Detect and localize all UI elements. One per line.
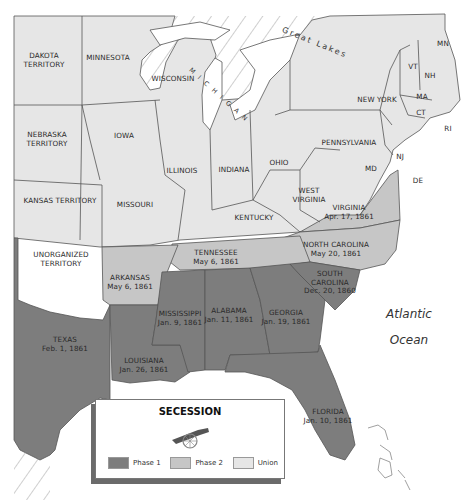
nebraska-label-line2: TERRITORY (27, 139, 68, 148)
south-carolina-date: Dec. 20, 1860 (304, 287, 356, 296)
legend-label-union: Union (258, 459, 278, 467)
label-nj: NJ (396, 153, 404, 162)
florida-date: Jan. 10, 1861 (304, 416, 353, 425)
swatch-phase1 (108, 457, 129, 469)
label-north-carolina: NORTH CAROLINAMay 20, 1861 (303, 241, 369, 258)
label-iowa: IOWA (114, 132, 134, 141)
label-nh: NH (425, 72, 436, 81)
label-ma: MA (416, 93, 427, 102)
legend-item-phase1: Phase 1 (108, 457, 161, 469)
label-dakota-territory: DAKOTATERRITORY (24, 52, 65, 69)
label-tennessee: TENNESSEEMay 6, 1861 (193, 249, 239, 266)
texas-date: Feb. 1, 1861 (42, 344, 88, 353)
legend-label-phase2: Phase 2 (195, 459, 223, 467)
label-pennsylvania: PENNSYLVANIA (322, 139, 377, 148)
dakota-label-line2: TERRITORY (24, 60, 65, 69)
label-mississippi: MISSISSIPPIJan. 9, 1861 (158, 310, 202, 327)
north-carolina-date: May 20, 1861 (303, 249, 369, 258)
legend-label-phase1: Phase 1 (133, 459, 161, 467)
swatch-union (233, 457, 254, 469)
label-georgia: GEORGIAJan. 19, 1861 (262, 309, 311, 326)
label-unorganized-territory: UNORGANIZEDTERRITORY (33, 251, 88, 268)
label-wisconsin: WISCONSIN (152, 75, 195, 84)
label-west-virginia: WESTVIRGINIA (293, 187, 326, 204)
label-texas: TEXASFeb. 1, 1861 (42, 336, 88, 353)
wv-label-line2: VIRGINIA (293, 195, 326, 204)
label-missouri: MISSOURI (117, 201, 153, 210)
label-mn: MN (437, 40, 449, 49)
label-florida: FLORIDAJan. 10, 1861 (304, 408, 353, 425)
label-ri: RI (444, 125, 451, 134)
legend-items: Phase 1 Phase 2 Union (108, 457, 278, 469)
label-south-carolina: SOUTHCAROLINADec. 20, 1860 (304, 270, 356, 296)
label-ocean: Ocean (390, 333, 428, 347)
label-arkansas: ARKANSASMay 6, 1861 (107, 274, 153, 291)
mississippi-date: Jan. 9, 1861 (158, 318, 202, 327)
label-ohio: OHIO (269, 159, 288, 168)
unorganized-label-line2: TERRITORY (33, 259, 88, 268)
label-atlantic: Atlantic (386, 307, 432, 321)
tennessee-date: May 6, 1861 (193, 257, 239, 266)
label-louisiana: LOUISIANAJan. 26, 1861 (120, 357, 169, 374)
label-nebraska-territory: NEBRASKATERRITORY (27, 131, 68, 148)
alabama-date: Jan. 11, 1861 (205, 315, 254, 324)
swatch-phase2 (170, 457, 191, 469)
legend: SECESSION Phase 1 Phase 2 Union (95, 399, 285, 479)
label-kansas-territory: KANSAS TERRITORY (24, 197, 97, 206)
cannon-icon (168, 422, 212, 450)
arkansas-date: May 6, 1861 (107, 282, 153, 291)
legend-item-union: Union (233, 457, 278, 469)
georgia-date: Jan. 19, 1861 (262, 317, 311, 326)
label-vt: VT (408, 63, 418, 72)
label-kentucky: KENTUCKY (235, 214, 274, 223)
label-indiana: INDIANA (218, 166, 249, 175)
label-new-york: NEW YORK (357, 96, 396, 105)
virginia-date: Apr. 17, 1861 (324, 212, 374, 221)
label-de: DE (413, 177, 423, 186)
label-virginia: VIRGINIAApr. 17, 1861 (324, 204, 374, 221)
legend-item-phase2: Phase 2 (170, 457, 223, 469)
label-md: MD (365, 165, 377, 174)
label-minnesota: MINNESOTA (86, 54, 129, 63)
label-illinois: ILLINOIS (167, 167, 198, 176)
legend-title: SECESSION (96, 406, 284, 417)
label-alabama: ALABAMAJan. 11, 1861 (205, 307, 254, 324)
louisiana-date: Jan. 26, 1861 (120, 365, 169, 374)
label-ct: CT (416, 109, 426, 118)
